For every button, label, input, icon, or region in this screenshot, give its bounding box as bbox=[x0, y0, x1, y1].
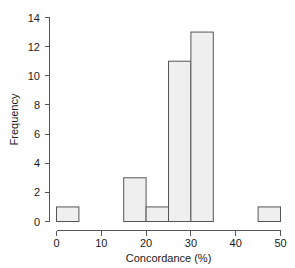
x-tick-label: 40 bbox=[230, 237, 242, 249]
y-tick-label: 6 bbox=[34, 128, 40, 140]
histogram-bar bbox=[57, 207, 79, 222]
histogram-figure: 02468101214 01020304050 Concordance (%) … bbox=[0, 0, 295, 268]
y-tick-label: 8 bbox=[34, 99, 40, 111]
concordance-histogram: 02468101214 01020304050 Concordance (%) … bbox=[0, 0, 295, 268]
histogram-bar bbox=[124, 178, 146, 222]
y-axis-title: Frequency bbox=[8, 93, 20, 145]
y-tick-label: 2 bbox=[34, 186, 40, 198]
histogram-bar bbox=[169, 61, 191, 221]
x-tick-label: 50 bbox=[274, 237, 286, 249]
x-tick-label: 10 bbox=[95, 237, 107, 249]
y-tick-label: 10 bbox=[28, 70, 40, 82]
histogram-bar bbox=[258, 207, 280, 222]
histogram-bar bbox=[146, 207, 168, 222]
chart-background bbox=[0, 0, 295, 268]
y-tick-label: 0 bbox=[34, 216, 40, 228]
y-tick-label: 4 bbox=[34, 157, 40, 169]
x-axis-title: Concordance (%) bbox=[126, 252, 212, 264]
y-tick-label: 12 bbox=[28, 41, 40, 53]
x-tick-label: 30 bbox=[185, 237, 197, 249]
y-tick-label: 14 bbox=[28, 12, 40, 24]
x-tick-label: 20 bbox=[140, 237, 152, 249]
x-tick-label: 0 bbox=[53, 237, 59, 249]
histogram-bar bbox=[191, 32, 213, 221]
